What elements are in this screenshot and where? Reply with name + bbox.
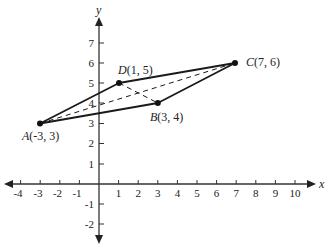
- svg-text:1: 1: [116, 187, 122, 199]
- svg-text:-4: -4: [13, 187, 23, 199]
- svg-text:2: 2: [89, 137, 95, 149]
- svg-text:8: 8: [253, 187, 259, 199]
- svg-text:2: 2: [135, 187, 141, 199]
- x-axis-label: x: [318, 177, 325, 191]
- label-a: A(-3, 3): [21, 129, 59, 143]
- point-b: [155, 100, 161, 106]
- diagonal-db: [119, 83, 158, 103]
- svg-text:-2: -2: [85, 218, 94, 230]
- x-tick-labels: -4 -3 -2 -1 1 2 3 4 5 6 7 8 9 10: [13, 187, 301, 199]
- svg-text:4: 4: [175, 187, 181, 199]
- svg-text:9: 9: [273, 187, 279, 199]
- label-c: C(7, 6): [246, 55, 280, 69]
- y-ticks: [99, 43, 104, 224]
- svg-text:-1: -1: [72, 187, 81, 199]
- svg-text:5: 5: [194, 187, 200, 199]
- x-axis-left-arrow-icon: [4, 180, 13, 188]
- svg-text:3: 3: [155, 187, 161, 199]
- label-d: D(1, 5): [117, 63, 153, 77]
- y-axis-label: y: [95, 3, 102, 17]
- point-a: [37, 121, 43, 127]
- svg-text:6: 6: [89, 57, 95, 69]
- svg-text:7: 7: [233, 187, 239, 199]
- coordinate-plane: x y -4 -3 -2 -1 1 2 3 4 5 6 7 8 9 10: [0, 0, 327, 249]
- svg-text:3: 3: [89, 117, 95, 129]
- point-d: [116, 80, 122, 86]
- y-tick-labels: 7 6 5 4 3 2 1 -1 -2: [85, 37, 95, 230]
- svg-text:-2: -2: [53, 187, 62, 199]
- svg-text:1: 1: [89, 158, 95, 170]
- svg-text:10: 10: [290, 187, 302, 199]
- svg-text:5: 5: [89, 77, 95, 89]
- y-axis-up-arrow-icon: [95, 17, 103, 26]
- label-b: B(3, 4): [150, 110, 183, 124]
- svg-text:-1: -1: [85, 198, 94, 210]
- svg-text:-3: -3: [33, 187, 43, 199]
- svg-text:6: 6: [214, 187, 220, 199]
- svg-text:7: 7: [89, 37, 95, 49]
- x-axis-right-arrow-icon: [307, 180, 316, 188]
- y-axis-down-arrow-icon: [95, 235, 103, 244]
- point-c: [232, 60, 238, 66]
